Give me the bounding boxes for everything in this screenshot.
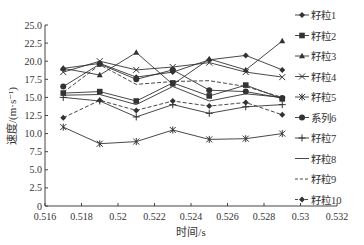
legend-item-1: 籽粒1 bbox=[295, 9, 336, 21]
x-tick-label: 0.522 bbox=[143, 211, 166, 222]
y-tick-label: 20.0 bbox=[25, 56, 43, 67]
x-tick-label: 0.53 bbox=[292, 211, 310, 222]
x-tick-label: 0.524 bbox=[180, 211, 203, 222]
y-tick-label: 17.5 bbox=[25, 74, 43, 85]
x-axis-label: 时间/s bbox=[176, 226, 205, 238]
x-tick-label: 0.528 bbox=[253, 211, 276, 222]
legend-label: 系列6 bbox=[311, 112, 336, 124]
axes: 0.5160.5180.520.5220.5240.5260.5280.530.… bbox=[25, 20, 349, 223]
y-tick-label: 0 bbox=[37, 201, 42, 212]
legend-label: 籽粒1 bbox=[311, 9, 336, 21]
x-tick-label: 0.526 bbox=[216, 211, 239, 222]
legend-label: 籽粒9 bbox=[311, 173, 336, 185]
series-7 bbox=[60, 94, 286, 121]
y-tick-label: 12.5 bbox=[25, 110, 43, 121]
legend-label: 籽粒3 bbox=[311, 50, 336, 62]
x-tick-label: 0.52 bbox=[109, 211, 127, 222]
x-tick-label: 0.518 bbox=[70, 211, 93, 222]
legend-item-10: 籽粒10 bbox=[295, 194, 342, 206]
plot-area bbox=[60, 38, 286, 148]
x-tick-label: 0.532 bbox=[326, 211, 349, 222]
legend-item-6: 系列6 bbox=[295, 112, 336, 124]
legend-item-3: 籽粒3 bbox=[295, 50, 336, 62]
legend-label: 籽粒8 bbox=[311, 153, 336, 165]
chart-canvas: 0.5160.5180.520.5220.5240.5260.5280.530.… bbox=[0, 0, 364, 245]
legend: 籽粒1籽粒2籽粒3籽粒4籽粒5系列6籽粒7籽粒8籽粒9籽粒10 bbox=[295, 9, 342, 206]
legend-item-4: 籽粒4 bbox=[295, 71, 337, 83]
y-tick-label: 2.5 bbox=[30, 182, 43, 193]
y-tick-label: 7.5 bbox=[30, 146, 43, 157]
legend-label: 籽粒4 bbox=[311, 71, 337, 83]
y-axis-label: 速度/(m·s⁻¹) bbox=[5, 87, 19, 145]
y-tick-label: 5.0 bbox=[30, 164, 43, 175]
legend-item-9: 籽粒9 bbox=[295, 173, 336, 185]
velocity-line-chart: 0.5160.5180.520.5220.5240.5260.5280.530.… bbox=[0, 0, 364, 245]
y-tick-label: 25.0 bbox=[25, 20, 43, 31]
series-1 bbox=[60, 52, 285, 80]
series-3 bbox=[60, 38, 285, 87]
legend-item-2: 籽粒2 bbox=[295, 30, 336, 42]
x-tick-label: 0.516 bbox=[34, 211, 57, 222]
y-tick-label: 15.0 bbox=[25, 92, 43, 103]
y-tick-label: 22.5 bbox=[25, 38, 43, 49]
legend-item-5: 籽粒5 bbox=[295, 91, 336, 103]
y-tick-label: 10.0 bbox=[25, 128, 43, 139]
legend-label: 籽粒2 bbox=[311, 30, 336, 42]
legend-label: 籽粒5 bbox=[311, 91, 336, 103]
legend-item-7: 籽粒7 bbox=[295, 132, 336, 144]
legend-label: 籽粒7 bbox=[311, 132, 336, 144]
legend-item-8: 籽粒8 bbox=[295, 153, 336, 165]
legend-label: 籽粒10 bbox=[311, 194, 342, 206]
series-5 bbox=[60, 124, 285, 148]
